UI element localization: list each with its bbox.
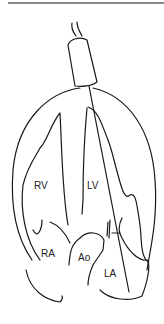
transducer-probe bbox=[68, 38, 97, 86]
label-ra: RA bbox=[41, 248, 55, 259]
transducer-cable bbox=[72, 22, 82, 36]
label-lv: LV bbox=[87, 180, 99, 191]
label-rv: RV bbox=[34, 180, 48, 191]
label-ao: Ao bbox=[78, 252, 90, 263]
ra-outline bbox=[26, 220, 70, 302]
heart-diagram bbox=[0, 0, 164, 324]
label-la: LA bbox=[104, 268, 116, 279]
epicardium-outline bbox=[12, 88, 155, 270]
